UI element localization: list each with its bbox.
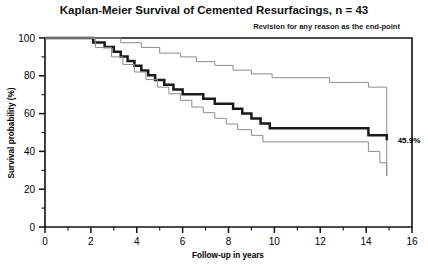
y-tick-label: 0 (29, 222, 35, 233)
x-tick-label: 14 (361, 236, 373, 247)
x-tick-label: 12 (315, 236, 327, 247)
chart-background (0, 0, 428, 269)
x-tick-label: 4 (134, 236, 140, 247)
kaplan-meier-chart: Kaplan-Meier Survival of Cemented Resurf… (0, 0, 428, 269)
y-tick-label: 40 (24, 146, 36, 157)
x-tick-label: 10 (269, 236, 281, 247)
chart-annotations: 45.9% (398, 136, 421, 145)
y-tick-label: 60 (24, 108, 36, 119)
y-tick-label: 20 (24, 184, 36, 195)
chart-subtitle: Revision for any reason as the end-point (253, 22, 400, 31)
x-tick-label: 6 (180, 236, 186, 247)
x-axis-title: Follow-up in years (192, 251, 264, 260)
y-tick-label: 80 (24, 70, 36, 81)
chart-title: Kaplan-Meier Survival of Cemented Resurf… (60, 4, 368, 16)
x-tick-label: 0 (42, 236, 48, 247)
x-tick-label: 2 (88, 236, 94, 247)
x-tick-label: 8 (226, 236, 232, 247)
y-tick-label: 100 (18, 33, 35, 44)
x-tick-label: 16 (406, 236, 418, 247)
y-axis-title: Survival probability (%) (7, 87, 16, 178)
final-survival-label: 45.9% (398, 136, 421, 145)
